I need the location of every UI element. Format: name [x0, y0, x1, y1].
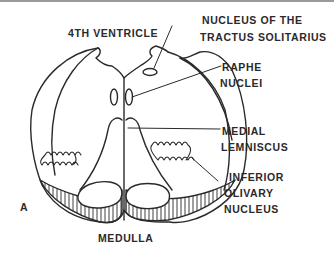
- label-medial-lemniscus-line1: MEDIAL: [222, 124, 266, 139]
- olive-left: [41, 152, 81, 165]
- label-nts-line1: NUCLEUS OF THE: [202, 13, 303, 28]
- label-ion-line1: INFERIOR: [229, 170, 284, 185]
- label-medial-lemniscus-line2: LEMNISCUS: [221, 140, 288, 155]
- label-raphe-line1: RAPHE: [222, 60, 262, 75]
- label-nts-line2: TRACTUS SOLITARIUS: [200, 30, 327, 45]
- figure-title: MEDULLA: [98, 231, 154, 246]
- olive-right: [151, 142, 194, 160]
- nts-nucleus: [143, 69, 157, 76]
- panel-letter: A: [20, 200, 28, 215]
- medial-lemniscus-left: [80, 118, 122, 190]
- label-ion-line3: NUCLEUS: [224, 202, 279, 217]
- label-ion-line2: OLIVARY: [224, 186, 274, 201]
- medial-lemniscus-right: [126, 118, 172, 190]
- label-4th-ventricle: 4TH VENTRICLE: [68, 26, 158, 41]
- raphe-nucleus-left: [111, 89, 118, 105]
- label-raphe-line2: NUCLEI: [220, 76, 263, 91]
- raphe-nucleus-right: [126, 89, 133, 105]
